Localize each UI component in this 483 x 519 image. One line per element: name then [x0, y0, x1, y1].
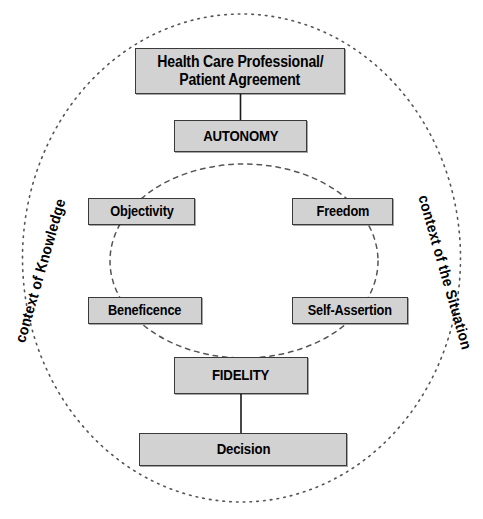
node-beneficence[interactable]: Beneficence	[88, 297, 202, 324]
node-freedom-label: Freedom	[316, 203, 369, 219]
node-decision-label: Decision	[216, 441, 270, 458]
node-self-assertion-label: Self-Assertion	[308, 302, 392, 318]
node-agreement-line2: Patient Agreement	[180, 71, 301, 89]
node-autonomy[interactable]: AUTONOMY	[174, 120, 307, 152]
node-beneficence-label: Beneficence	[108, 302, 181, 318]
node-fidelity[interactable]: FIDELITY	[174, 357, 308, 394]
node-objectivity[interactable]: Objectivity	[88, 198, 195, 225]
node-self-assertion[interactable]: Self-Assertion	[292, 297, 408, 324]
node-autonomy-label: AUTONOMY	[203, 128, 278, 145]
diagram-canvas: Health Care Professional/ Patient Agreem…	[0, 0, 483, 519]
inner-ring	[110, 164, 378, 358]
node-freedom[interactable]: Freedom	[292, 198, 393, 225]
node-decision[interactable]: Decision	[139, 433, 347, 466]
node-objectivity-label: Objectivity	[110, 203, 173, 219]
node-agreement-line1: Health Care Professional/	[157, 53, 323, 71]
node-fidelity-label: FIDELITY	[212, 367, 269, 384]
node-health-care-professional-patient-agreement[interactable]: Health Care Professional/ Patient Agreem…	[135, 48, 345, 94]
